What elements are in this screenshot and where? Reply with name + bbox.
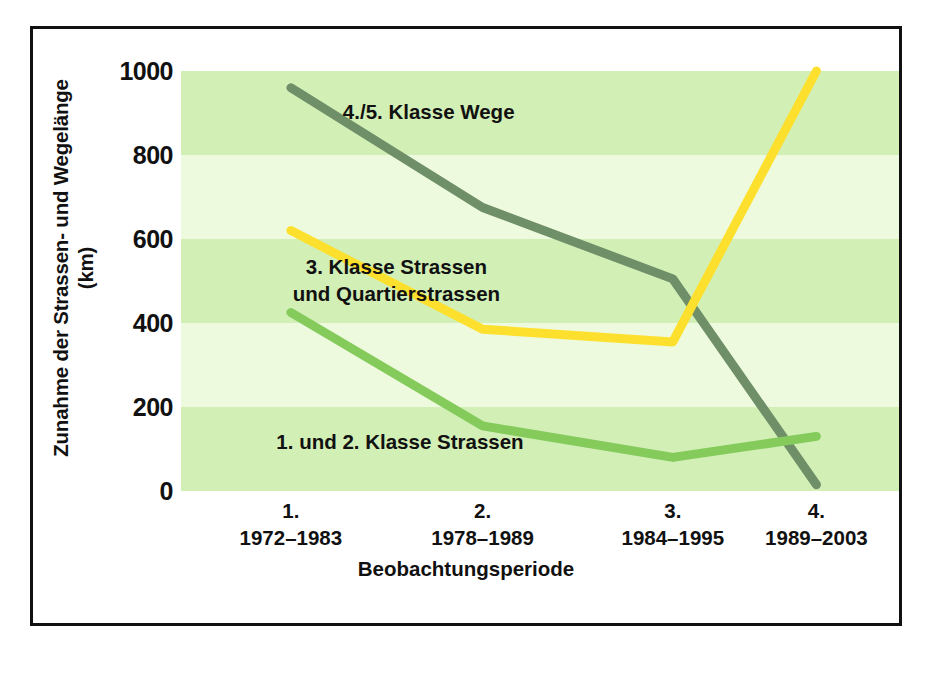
y-axis-tick-labels: 1000 800 600 400 200 0 — [49, 71, 173, 491]
x-tick-period-1-range: 1972–1983 — [201, 524, 381, 551]
x-tick-period-1: 1. 1972–1983 — [201, 497, 381, 551]
x-tick-period-4-number: 4. — [726, 497, 906, 524]
x-tick-period-1-number: 1. — [201, 497, 381, 524]
x-tick-period-2-number: 2. — [393, 497, 573, 524]
y-tick-1000: 1000 — [63, 57, 173, 86]
y-tick-200: 200 — [63, 393, 173, 422]
y-tick-600: 600 — [63, 225, 173, 254]
x-tick-period-2: 2. 1978–1989 — [393, 497, 573, 551]
annotation-wege: 4./5. Klasse Wege — [343, 99, 515, 126]
annotation-quartier: 3. Klasse Strassen und Quartierstrassen — [293, 254, 500, 307]
x-tick-period-4: 4. 1989–2003 — [726, 497, 906, 551]
y-tick-0: 0 — [63, 477, 173, 506]
chart-frame: Zunahme der Strassen- und Wegelänge (km)… — [30, 26, 902, 626]
x-axis-title: Beobachtungsperiode — [33, 557, 899, 581]
plot-area: 4./5. Klasse Wege 3. Klasse Strassen und… — [181, 71, 899, 491]
annotation-strassen: 1. und 2. Klasse Strassen — [276, 429, 523, 456]
y-tick-800: 800 — [63, 141, 173, 170]
x-axis-tick-labels: 1. 1972–1983 2. 1978–1989 3. 1984–1995 4… — [181, 497, 899, 557]
x-tick-period-4-range: 1989–2003 — [726, 524, 906, 551]
y-tick-400: 400 — [63, 309, 173, 338]
figure-canvas: Zunahme der Strassen- und Wegelänge (km)… — [0, 0, 937, 673]
x-tick-period-2-range: 1978–1989 — [393, 524, 573, 551]
